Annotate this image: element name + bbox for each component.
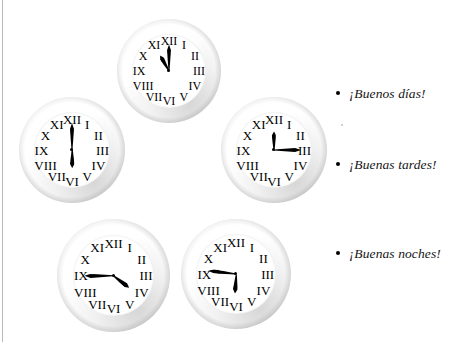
clock-minute-hand <box>70 123 74 150</box>
clock-numeral-ii: II <box>259 252 268 265</box>
clock-numeral-vi: VI <box>65 174 79 187</box>
bullet-icon <box>336 251 340 255</box>
clock-face: XIIIIIIIIIVVVIVIIVIIIIXXXI <box>73 235 154 316</box>
clock-face: XIIIIIIIIIVVVIVIIVIIIIXXXI <box>196 234 275 313</box>
greeting-text: ¡Buenas tardes! <box>349 157 437 173</box>
clock-eleven-o-clock: XIIIIIIIIIVVVIVIIVIIIIXXXI <box>117 19 221 123</box>
greeting-item-2: ¡Buenas tardes! <box>336 157 437 173</box>
clock-minute-hand <box>274 148 301 152</box>
clock-twelve-fifteen: XIIIIIIIIIVVVIVIIVIIIIXXXI <box>221 97 327 203</box>
clock-face: XIIIIIIIIIVVVIVIIVIIIIXXXI <box>236 112 312 188</box>
clock-numeral-xi: XI <box>148 39 161 51</box>
greeting-item-3: ¡Buenas noches! <box>336 246 441 262</box>
greeting-text: ¡Buenos días! <box>349 86 426 102</box>
clock-numeral-iv: IV <box>135 285 149 298</box>
clock-numeral-i: I <box>250 240 254 253</box>
clock-numeral-i: I <box>128 241 132 254</box>
clock-six-o-clock: XIIIIIIIIIVVVIVIIVIIIIXXXI <box>19 97 125 203</box>
clock-numeral-v: V <box>180 91 189 103</box>
clock-numeral-iii: III <box>96 143 109 156</box>
clock-numeral-iv: IV <box>257 283 271 296</box>
clock-numeral-ix: IX <box>35 143 49 156</box>
clock-numeral-viii: VIII <box>133 80 154 92</box>
clock-numeral-iii: III <box>193 65 205 77</box>
clock-hour-hand <box>70 150 74 169</box>
clock-numeral-x: X <box>139 50 148 62</box>
greeting-text: ¡Buenas noches! <box>349 246 441 262</box>
clock-numeral-x: X <box>204 252 213 265</box>
bullet-icon <box>336 162 340 166</box>
clock-numeral-iii: III <box>261 267 274 280</box>
clock-numeral-v: V <box>125 297 134 310</box>
clock-numeral-ix: IX <box>237 143 251 156</box>
clock-four-forty-five: XIIIIIIIIIVVVIVIIVIIIIXXXI <box>57 219 170 332</box>
clock-numeral-xi: XI <box>90 241 104 254</box>
clock-numeral-i: I <box>287 117 291 130</box>
greeting-item-1: ¡Buenos días! <box>336 86 426 102</box>
bullet-icon <box>336 91 340 95</box>
clock-numeral-ii: II <box>296 128 305 141</box>
clock-numeral-v: V <box>247 295 256 308</box>
clock-numeral-i: I <box>85 117 89 130</box>
clock-numeral-iv: IV <box>92 159 106 172</box>
clock-numeral-viii: VIII <box>197 283 219 296</box>
clock-numeral-v: V <box>83 170 92 183</box>
clock-numeral-viii: VIII <box>236 159 258 172</box>
clock-numeral-vi: VI <box>107 302 121 315</box>
clock-numeral-x: X <box>41 128 50 141</box>
clock-numeral-xi: XI <box>252 117 266 130</box>
clock-numeral-vi: VI <box>267 174 281 187</box>
clock-numeral-xi: XI <box>213 240 227 253</box>
clock-numeral-vi: VI <box>163 95 176 107</box>
clock-numeral-xii: XII <box>104 236 122 249</box>
clock-minute-hand <box>167 44 171 71</box>
clock-center-pivot <box>112 274 115 277</box>
clock-numeral-ii: II <box>191 50 199 62</box>
clock-numeral-viii: VIII <box>34 159 56 172</box>
clock-numeral-ii: II <box>94 128 103 141</box>
clock-minute-hand <box>208 268 236 276</box>
left-margin-rule <box>2 0 3 342</box>
clock-numeral-vi: VI <box>229 299 243 312</box>
clock-numeral-iii: III <box>140 269 153 282</box>
clock-numeral-ix: IX <box>133 65 146 77</box>
clock-six-forty-five: XIIIIIIIIIVVVIVIIVIIIIXXXI <box>181 219 291 329</box>
clock-face: XIIIIIIIIIVVVIVIIVIIIIXXXI <box>34 112 110 188</box>
clock-numeral-xi: XI <box>50 117 64 130</box>
stray-speck <box>341 124 343 126</box>
clock-numeral-xii: XII <box>227 236 245 249</box>
clock-greetings-worksheet: XIIIIIIIIIVVVIVIIVIIIIXXXIXIIIIIIIIIVVVI… <box>0 0 476 342</box>
clock-numeral-viii: VIII <box>74 285 96 298</box>
clock-numeral-x: X <box>243 128 252 141</box>
clock-numeral-xii: XII <box>265 113 283 126</box>
clock-minute-hand <box>85 273 114 277</box>
clock-numeral-iv: IV <box>189 80 202 92</box>
clock-hour-hand <box>232 274 238 294</box>
clock-numeral-i: I <box>182 39 186 51</box>
clock-numeral-ii: II <box>137 253 146 266</box>
clock-numeral-v: V <box>285 170 294 183</box>
clock-numeral-iv: IV <box>294 159 308 172</box>
clock-numeral-x: X <box>81 253 90 266</box>
